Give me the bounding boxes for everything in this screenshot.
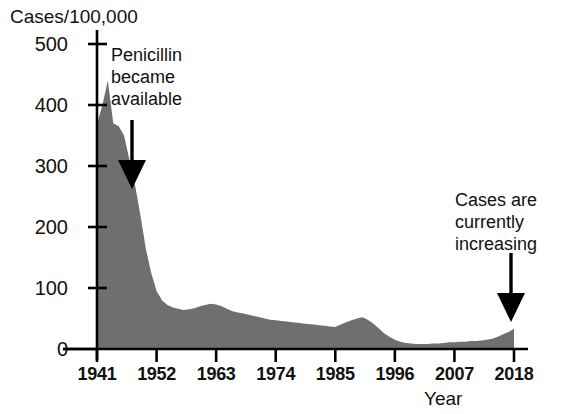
- y-tick-label: 300: [10, 156, 68, 176]
- y-tick-label: 400: [10, 95, 68, 115]
- chart-figure: Cases/100,000 Year 0100200300400500 1941…: [0, 0, 563, 414]
- x-tick-label: 1952: [125, 365, 189, 383]
- x-tick-label: 1996: [363, 365, 427, 383]
- annotation-penicillin: Penicillin became available: [111, 44, 182, 110]
- annotation-increasing: Cases are currently increasing: [455, 189, 537, 255]
- x-tick-label: 1974: [244, 365, 308, 383]
- y-tick-label: 0: [10, 339, 68, 359]
- plot-area: [97, 81, 514, 349]
- x-tick-label: 1963: [184, 365, 248, 383]
- increasing-arrow-icon: [497, 253, 525, 322]
- y-tick-label: 100: [10, 278, 68, 298]
- y-tick-label: 500: [10, 34, 68, 54]
- x-tick-label: 1985: [303, 365, 367, 383]
- x-tick-label: 2018: [482, 365, 546, 383]
- x-tick-marks: [97, 349, 514, 362]
- x-tick-label: 2007: [422, 365, 486, 383]
- y-tick-label: 200: [10, 217, 68, 237]
- area-series-path: [97, 81, 514, 349]
- x-tick-label: 1941: [65, 365, 129, 383]
